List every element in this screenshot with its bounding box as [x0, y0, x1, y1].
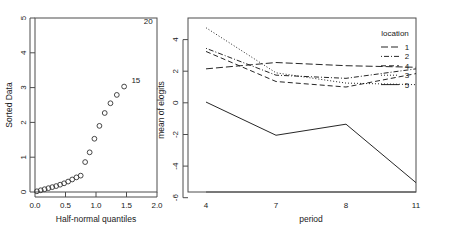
legend-label-4: 4 — [405, 62, 410, 71]
legend-label-2: 2 — [405, 52, 410, 61]
right-ytick-2: 0 — [171, 100, 180, 105]
right-plot-frame — [188, 18, 416, 192]
legend: location 12435 — [381, 29, 410, 90]
right-x-tick-labels: 4 7 8 11 — [204, 201, 421, 210]
right-y-tick-labels: 4 2 0 -2 -4 -6 — [171, 37, 180, 201]
legend-entry-group: 12435 — [381, 43, 410, 90]
right-xtick-2: 8 — [344, 201, 349, 210]
right-y-axis — [183, 40, 188, 198]
figure-canvas: 0 1 2 3 4 5 Sorted Data 0.0 0.5 1.0 1.5 … — [0, 0, 452, 235]
right-y-axis-title: mean of elogits — [156, 81, 166, 139]
right-xtick-3: 11 — [412, 201, 421, 210]
legend-label-5: 5 — [405, 81, 410, 90]
right-x-axis-title: period — [299, 214, 323, 224]
right-ytick-4: -4 — [171, 162, 180, 170]
right-ytick-5: -6 — [171, 194, 180, 202]
right-ytick-3: -2 — [171, 130, 180, 138]
series-line-5 — [206, 102, 416, 183]
interaction-series-group — [206, 28, 416, 183]
right-ytick-1: 2 — [171, 68, 180, 73]
right-xtick-1: 7 — [274, 201, 279, 210]
right-xtick-0: 4 — [204, 201, 209, 210]
legend-label-1: 1 — [405, 43, 410, 52]
right-ytick-0: 4 — [171, 37, 180, 42]
legend-label-3: 3 — [405, 71, 410, 80]
legend-title: location — [381, 29, 409, 38]
series-line-2 — [206, 48, 416, 78]
interaction-plot-panel: 4 2 0 -2 -4 -6 mean of elogits 4 7 8 11 … — [0, 0, 452, 235]
